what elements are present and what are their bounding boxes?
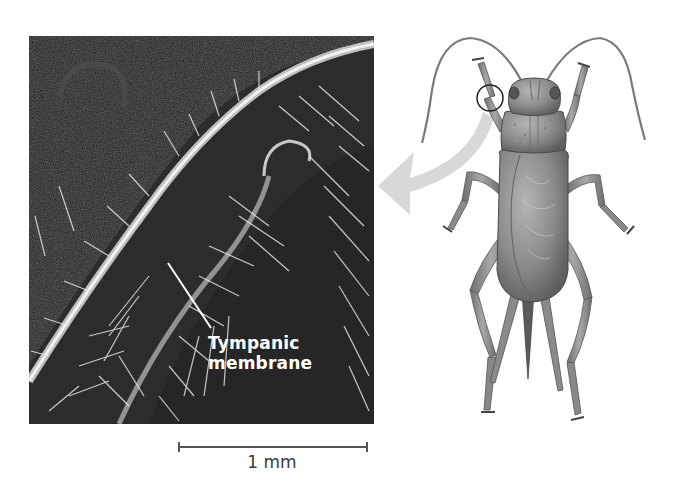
left-cercus [490, 290, 520, 383]
figure: Tympanic membrane 1 mm [0, 0, 677, 497]
cricket-illustration [0, 0, 677, 497]
left-eye [509, 87, 519, 99]
ovipositor [522, 292, 534, 379]
right-cercus [540, 290, 563, 391]
right-eye [550, 87, 560, 99]
cricket-body [497, 150, 568, 302]
callout-arrow [378, 112, 494, 215]
